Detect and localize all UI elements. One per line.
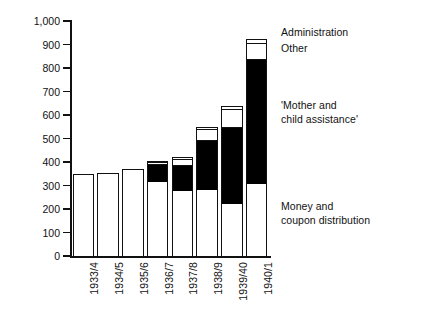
y-axis-tick — [63, 161, 71, 163]
y-axis-tick — [63, 138, 71, 140]
y-axis-tick-label: 600 — [8, 110, 60, 120]
y-axis-tick-label: 0 — [8, 251, 60, 261]
bar-segment — [196, 190, 217, 256]
bar-segment — [122, 173, 143, 256]
bar-1935-6 — [122, 169, 143, 256]
legend-label-administration: Administration — [281, 26, 348, 40]
x-axis-tick-label: 1938/9 — [212, 262, 224, 295]
bar-segment — [196, 127, 217, 129]
x-axis-tick-label: 1937/8 — [187, 262, 199, 295]
y-axis-tick-label: 100 — [8, 228, 60, 238]
bar-chart-figure: 01002003004005006007008009001,000 Millio… — [0, 0, 422, 329]
bar-1939-40 — [221, 106, 242, 256]
y-axis-tick-label: 300 — [8, 181, 60, 191]
x-axis-tick-label: 1934/5 — [113, 262, 125, 295]
bar-segment — [97, 175, 118, 256]
legend-label-mother-and-child-assistance: 'Mother and child assistance' — [281, 99, 358, 126]
y-axis-tick-label: 1,000 — [8, 16, 60, 26]
y-axis-tick — [63, 44, 71, 46]
bar-segment — [73, 174, 94, 176]
bar-segment — [246, 39, 267, 43]
legend-label-money-and-coupon-distribution: Money and coupon distribution — [281, 200, 370, 227]
bar-segment — [97, 173, 118, 175]
bar-segment — [196, 140, 217, 191]
x-axis-tick-label: 1935/6 — [138, 262, 150, 295]
bar-segment — [172, 159, 193, 165]
bar-1936-7 — [147, 161, 168, 256]
y-axis-tick — [63, 91, 71, 93]
y-axis-tick-label: 400 — [8, 157, 60, 167]
bar-segment — [221, 109, 242, 127]
x-axis-line — [70, 256, 271, 258]
bar-segment — [246, 43, 267, 58]
y-axis-tick — [63, 208, 71, 210]
y-axis-tick — [63, 255, 71, 257]
bar-segment — [122, 169, 143, 173]
bar-segment — [246, 59, 267, 185]
bar-1937-8 — [172, 157, 193, 256]
bar-1938-9 — [196, 127, 217, 256]
bar-segment — [147, 161, 168, 163]
bar-segment — [172, 165, 193, 191]
bar-segment — [73, 177, 94, 256]
x-axis-tick-label: 1940/1 — [262, 262, 274, 295]
x-axis-tick-label: 1933/4 — [88, 262, 100, 295]
y-axis-tick-label: 700 — [8, 87, 60, 97]
bar-segment — [172, 191, 193, 256]
y-axis-tick — [63, 185, 71, 187]
y-axis-tick — [63, 114, 71, 116]
bar-1940-1 — [246, 39, 267, 256]
bar-segment — [246, 184, 267, 256]
bar-1933-4 — [73, 174, 94, 256]
bar-segment — [196, 129, 217, 140]
y-axis-tick-label: 900 — [8, 40, 60, 50]
bar-segment — [221, 204, 242, 256]
bar-segment — [147, 164, 168, 182]
bar-segment — [147, 162, 168, 164]
legend-label-other: Other — [281, 42, 308, 56]
bar-segment — [172, 157, 193, 159]
bar-1934-5 — [97, 173, 118, 256]
x-axis-tick-label: 1936/7 — [163, 262, 175, 295]
bar-segment — [147, 182, 168, 256]
y-axis-tick — [63, 232, 71, 234]
plot-area — [71, 21, 270, 256]
bar-segment — [221, 127, 242, 205]
y-axis-tick-label: 800 — [8, 63, 60, 73]
y-axis-tick-label: 200 — [8, 204, 60, 214]
y-axis-tick — [63, 20, 71, 22]
x-axis-tick-label: 1939/40 — [237, 262, 249, 301]
y-axis-tick-label: 500 — [8, 134, 60, 144]
y-axis-tick — [63, 67, 71, 69]
bar-segment — [221, 106, 242, 110]
